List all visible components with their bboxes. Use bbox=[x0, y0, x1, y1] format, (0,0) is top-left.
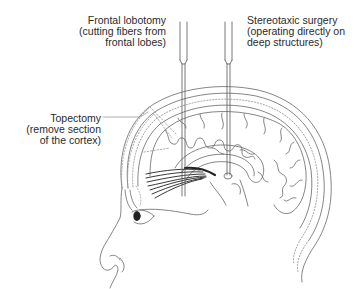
thalamus-target bbox=[224, 173, 232, 179]
topectomy-label: Topectomy (remove section of the cortex) bbox=[26, 113, 101, 146]
frontal-fibers bbox=[146, 168, 215, 198]
forehead-layers bbox=[125, 190, 137, 210]
frontal-lobotomy-desc-2: frontal lobes) bbox=[79, 37, 166, 48]
skull-bone-texture bbox=[133, 99, 318, 234]
corpus-callosum bbox=[175, 145, 264, 182]
orbit-roof bbox=[140, 209, 208, 215]
scalp-outline bbox=[121, 87, 331, 282]
nostril bbox=[110, 255, 120, 260]
stereotaxic-surgery-desc-2: deep structures) bbox=[247, 37, 345, 48]
corpus-callosum-inner bbox=[182, 154, 254, 176]
skull-outline bbox=[127, 93, 324, 240]
occipital-layers bbox=[293, 234, 309, 272]
topectomy-desc-2: of the cortex) bbox=[26, 135, 101, 146]
stereotaxic-instrument bbox=[225, 22, 232, 175]
cortex-outline bbox=[150, 112, 306, 214]
frontal-sinus bbox=[136, 186, 141, 206]
nose-ala bbox=[120, 258, 124, 272]
frontal-lobotomy-label: Frontal lobotomy (cutting fibers from fr… bbox=[79, 15, 166, 48]
gyri-3 bbox=[212, 148, 286, 198]
face-profile bbox=[100, 188, 122, 288]
eye-iris bbox=[134, 212, 140, 221]
stereotaxic-surgery-label: Stereotaxic surgery (operating directly … bbox=[247, 15, 345, 48]
brainstem bbox=[210, 180, 248, 206]
gyri bbox=[165, 130, 255, 159]
